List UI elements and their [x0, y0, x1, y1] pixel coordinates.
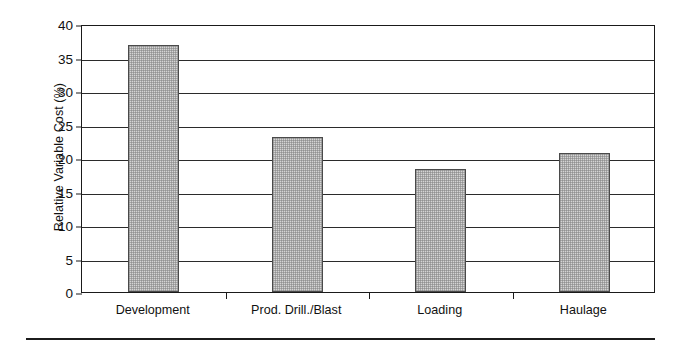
y-tick-label: 5	[65, 254, 73, 268]
y-tick-label: 20	[58, 153, 73, 167]
x-axis-label: Loading	[368, 303, 512, 317]
y-tick-mark	[76, 59, 82, 60]
y-tick-mark	[76, 294, 82, 295]
bar-prod-drill-blast	[272, 137, 323, 292]
plot-area: 0510152025303540	[81, 25, 655, 293]
y-tick-label: 30	[58, 86, 73, 100]
x-tick-mark	[513, 292, 514, 299]
y-tick-label: 0	[65, 287, 73, 301]
y-tick-mark	[76, 193, 82, 194]
y-tick-mark	[76, 160, 82, 161]
bar-development	[128, 45, 179, 292]
y-tick-mark	[76, 93, 82, 94]
x-axis-label: Prod. Drill./Blast	[225, 303, 369, 317]
x-axis-label: Development	[81, 303, 225, 317]
bar-haulage	[559, 153, 610, 292]
y-tick-mark	[76, 26, 82, 27]
x-tick-mark	[369, 292, 370, 299]
y-tick-mark	[76, 126, 82, 127]
bar-chart-figure: Relative Variable Cost (%) 0510152025303…	[0, 0, 674, 350]
y-tick-label: 15	[58, 187, 73, 201]
y-tick-mark	[76, 260, 82, 261]
y-tick-label: 40	[58, 19, 73, 33]
y-tick-mark	[76, 227, 82, 228]
x-axis-label: Haulage	[512, 303, 656, 317]
y-tick-label: 35	[58, 53, 73, 67]
y-tick-label: 25	[58, 120, 73, 134]
y-tick-label: 10	[58, 220, 73, 234]
bar-loading	[415, 169, 466, 292]
x-tick-mark	[226, 292, 227, 299]
bottom-divider	[26, 338, 655, 340]
